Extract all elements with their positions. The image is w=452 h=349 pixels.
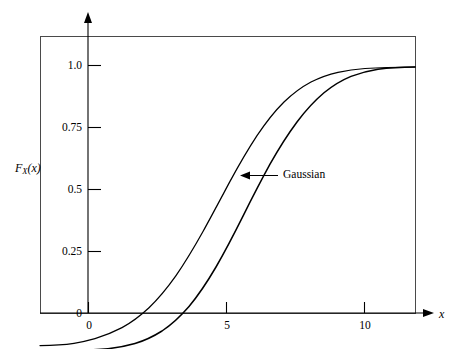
cdf-curve-approximation	[40, 67, 415, 346]
y-axis-title: FX(x)	[15, 162, 41, 176]
y-tick-label-075: 0.75	[44, 122, 82, 134]
gaussian-arrowhead	[240, 172, 250, 180]
y-tick-label-0: 0	[44, 308, 82, 320]
figure-container: 0 0.25 0.5 0.75 1.0 0 5 10 FX(x) x Gauss…	[0, 0, 452, 349]
y-tick-label-10: 1.0	[44, 60, 82, 72]
cdf-curve-gaussian	[40, 67, 415, 349]
y-axis-title-arg: (x)	[28, 161, 41, 175]
x-tick-label-0: 0	[69, 320, 109, 332]
x-axis-arrowhead	[423, 309, 434, 317]
x-tick-label-10: 10	[345, 320, 385, 332]
y-tick-label-05: 0.5	[44, 184, 82, 196]
y-tick-label-025: 0.25	[44, 246, 82, 258]
gaussian-annotation-label: Gaussian	[283, 169, 325, 181]
y-axis-arrowhead	[84, 12, 92, 23]
x-tick-marks	[89, 302, 365, 313]
y-tick-marks	[88, 66, 101, 252]
x-axis-title: x	[439, 308, 444, 320]
x-tick-label-5: 5	[207, 320, 247, 332]
plot-frame	[41, 37, 416, 314]
chart-canvas	[0, 0, 452, 349]
